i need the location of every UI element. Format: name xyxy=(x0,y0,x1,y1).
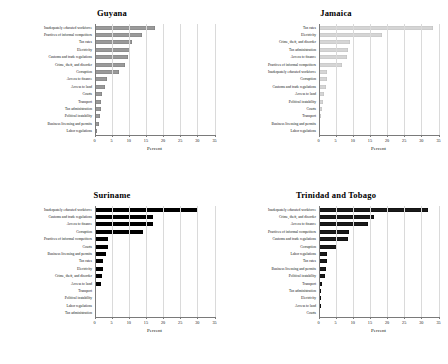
bar-cell xyxy=(319,265,439,272)
x-tick-label: 25 xyxy=(178,320,182,325)
bar-row: Access to land xyxy=(224,302,448,309)
x-tick-label: 35 xyxy=(436,138,440,143)
x-tick-label: 30 xyxy=(419,138,423,143)
x-tick xyxy=(215,317,216,319)
x-tick-label: 25 xyxy=(402,138,406,143)
x-tick xyxy=(421,135,422,137)
category-label: Courts xyxy=(224,107,319,111)
bar xyxy=(95,92,103,96)
bar xyxy=(95,267,103,271)
category-label: Business licensing and permits xyxy=(224,267,319,271)
x-tick-label: 20 xyxy=(385,320,389,325)
bar xyxy=(95,114,100,118)
category-label: Courts xyxy=(224,311,319,315)
x-tick xyxy=(336,317,337,319)
category-label: Business licensing and permits xyxy=(0,252,95,256)
bar xyxy=(319,252,328,256)
x-tick-label: 25 xyxy=(402,320,406,325)
bar-row: Transport xyxy=(0,287,224,294)
bar-row: Access to finance xyxy=(0,76,224,83)
bar-row: Labor regulations xyxy=(224,127,448,134)
x-tick xyxy=(163,317,164,319)
bar xyxy=(95,311,96,315)
x-tick-label: 0 xyxy=(93,138,95,143)
bar xyxy=(319,55,348,59)
bar-row: Crime, theft, and disorder xyxy=(0,273,224,280)
x-tick xyxy=(95,135,96,137)
bar xyxy=(319,92,325,96)
category-label: Political instability xyxy=(224,100,319,104)
category-label: Crime, theft, and disorder xyxy=(0,274,95,278)
x-tick-label: 15 xyxy=(368,320,372,325)
bar xyxy=(319,26,434,30)
bar-cell xyxy=(319,91,439,98)
category-label: Transport xyxy=(0,289,95,293)
bar xyxy=(319,282,322,286)
bar-cell xyxy=(319,120,439,127)
bar-cell xyxy=(319,250,439,257)
bar-cell xyxy=(319,83,439,90)
bar xyxy=(95,245,108,249)
bar xyxy=(95,289,97,293)
bar-cell xyxy=(95,221,215,228)
bar-row: Tax administration xyxy=(0,105,224,112)
bar-cell xyxy=(95,302,215,309)
bar xyxy=(319,208,428,212)
chart-title-jamaica: Jamaica xyxy=(224,8,448,18)
bar-row: Business licensing and permits xyxy=(224,120,448,127)
bar-row: Inadequately educated workforce xyxy=(224,206,448,213)
bar-cell xyxy=(95,228,215,235)
category-label: Crime, theft, and disorder xyxy=(224,215,319,219)
bar-row: Corruption xyxy=(224,243,448,250)
x-tick xyxy=(197,135,198,137)
x-tick xyxy=(370,317,371,319)
bar-row: Political instability xyxy=(0,113,224,120)
bar-cell xyxy=(319,206,439,213)
bar-cell xyxy=(95,46,215,53)
category-label: Tax rates xyxy=(224,26,319,30)
x-tick xyxy=(439,317,440,319)
bar-cell xyxy=(95,273,215,280)
chart-title-trinidad: Trinidad and Tobago xyxy=(224,190,448,200)
bar-row: Transport xyxy=(0,98,224,105)
category-label: Political instability xyxy=(0,296,95,300)
category-label: Tax rates xyxy=(0,259,95,263)
x-tick xyxy=(129,135,130,137)
bar-row: Tax administration xyxy=(224,46,448,53)
x-axis-line-trinidad xyxy=(319,317,439,318)
x-tick-label: 35 xyxy=(212,138,216,143)
category-label: Tax rates xyxy=(224,259,319,263)
plot-area-guyana: Inadequately educated workforcePractices… xyxy=(0,24,224,174)
bar-cell xyxy=(319,302,439,309)
bar xyxy=(319,70,328,74)
bar xyxy=(95,252,106,256)
bar-cell xyxy=(95,250,215,257)
category-label: Tax rates xyxy=(0,40,95,44)
category-label: Tax administration xyxy=(0,107,95,111)
bar-cell xyxy=(95,98,215,105)
category-label: Labor regulations xyxy=(224,129,319,133)
bar xyxy=(319,267,327,271)
x-tick xyxy=(336,135,337,137)
x-tick-label: 30 xyxy=(195,138,199,143)
category-label: Courts xyxy=(0,92,95,96)
bar-row: Access to finance xyxy=(224,54,448,61)
category-label: Inadequately educated workforce xyxy=(224,70,319,74)
bar xyxy=(95,55,128,59)
multi-panel-bar-chart-figure: Guyana Inadequately educated workforcePr… xyxy=(0,0,448,364)
category-label: Inadequately educated workforce xyxy=(0,26,95,30)
bar-row: Corruption xyxy=(0,68,224,75)
bar-row: Customs and trade regulations xyxy=(224,83,448,90)
bar xyxy=(319,259,327,263)
category-label: Crime, theft, and disorder xyxy=(0,63,95,67)
bar xyxy=(319,237,349,241)
bar xyxy=(95,129,97,133)
bar xyxy=(319,48,349,52)
bar-rows-jamaica: Tax ratesElectricityCrime, theft, and di… xyxy=(224,24,448,135)
category-label: Customs and trade regulations xyxy=(0,55,95,59)
chart-panel-trinidad: Trinidad and Tobago Inadequately educate… xyxy=(224,182,448,364)
bar-row: Crime, theft, and disorder xyxy=(0,61,224,68)
bar-cell xyxy=(319,280,439,287)
bar-cell xyxy=(95,54,215,61)
bar-cell xyxy=(95,39,215,46)
